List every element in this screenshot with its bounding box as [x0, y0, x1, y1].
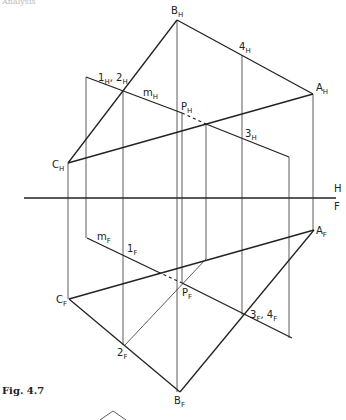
label-1-2-h: 1H, 2H [98, 72, 128, 86]
label-c-h: CH [52, 159, 64, 173]
next-figure-fragment [100, 411, 126, 420]
label-b-f: BF [174, 395, 185, 409]
label-2-f: 2F [117, 347, 127, 361]
label-f: F [334, 201, 340, 212]
label-a-f: AF [316, 225, 327, 239]
label-p-f: PF [182, 287, 192, 301]
label-m-f: mF [97, 231, 111, 245]
header-fragment: Analysis [1, 0, 36, 6]
line-m-top [86, 77, 289, 157]
descriptive-geometry-diagram: Analysis H F BH AH [0, 0, 346, 420]
front-view-triangle [69, 230, 314, 392]
label-4-h: 4H [239, 41, 251, 55]
label-3-4-f: 3F, 4F [250, 309, 277, 323]
projection-lines [68, 20, 313, 392]
line-m-front [87, 238, 292, 338]
label-1-f: 1F [127, 243, 137, 257]
label-a-h: AH [316, 82, 328, 96]
label-c-f: CF [56, 294, 67, 308]
figure-caption: Fig. 4.7 [2, 385, 44, 396]
label-h: H [334, 183, 342, 194]
label-b-h: BH [171, 5, 183, 19]
top-view-triangle [68, 20, 313, 163]
